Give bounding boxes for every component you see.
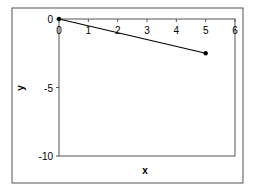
y-axis-title: y (15, 85, 26, 91)
y-tick-label: 0 (47, 14, 53, 25)
x-tick-label: 3 (144, 25, 150, 36)
x-tick-label: 4 (174, 25, 180, 36)
y-tick-label: -5 (44, 83, 53, 94)
x-tick-label: 5 (203, 25, 209, 36)
x-tick-label: 2 (115, 25, 121, 36)
data-point-marker (203, 51, 207, 55)
x-tick-label: 6 (232, 25, 238, 36)
chart: 0123456 0-5-10 x y (0, 0, 258, 192)
y-tick-label: -10 (39, 151, 54, 162)
x-tick-label: 0 (56, 25, 62, 36)
data-point-marker (57, 17, 61, 21)
x-axis-title: x (142, 165, 148, 176)
